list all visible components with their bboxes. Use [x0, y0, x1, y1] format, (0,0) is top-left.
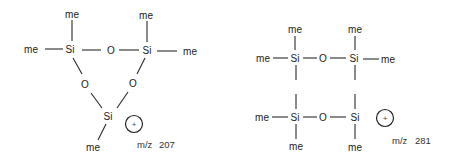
svg-text:+: + [383, 114, 388, 123]
atom-si: Si [291, 112, 300, 123]
atom-me: me [348, 142, 362, 153]
atom-me: me [139, 10, 153, 21]
svg-text:+: + [132, 120, 137, 129]
bond-o-left-si3 [91, 93, 102, 108]
atom-me: me [24, 44, 38, 55]
bond-si3-me-bottom [98, 124, 106, 140]
left-structure: me me Si O Si me me O O Si me + m/z 207 [24, 9, 197, 153]
siloxane-fragment-diagram: me me Si O Si me me O O Si me + m/z 207 [0, 0, 450, 159]
atom-si: Si [104, 111, 113, 122]
atom-me: me [348, 24, 362, 35]
right-structure: me me Si O Si me me me Si O Si me me + m… [255, 24, 431, 153]
atom-si: Si [350, 53, 359, 64]
atom-me: me [183, 46, 197, 57]
atom-si: Si [351, 112, 360, 123]
mz-label: m/z [392, 135, 408, 146]
atom-si: Si [66, 44, 75, 55]
atom-si: Si [143, 45, 152, 56]
mz-label: m/z [137, 139, 153, 150]
bond-si2-o-right [137, 58, 145, 74]
atom-me: me [289, 141, 303, 152]
atom-o: O [319, 53, 327, 64]
atom-me: me [288, 24, 302, 35]
atom-o: O [107, 45, 115, 56]
atom-o: O [81, 79, 89, 90]
bond-si1-o-left [73, 58, 82, 74]
atom-me: me [86, 142, 100, 153]
positive-charge-icon: + [377, 110, 394, 127]
atom-me: me [255, 112, 269, 123]
atom-o: O [319, 112, 327, 123]
bond-o-right-si3 [117, 92, 128, 108]
mz-value: 207 [159, 139, 175, 150]
atom-me: me [256, 53, 270, 64]
atom-me: me [381, 54, 395, 65]
atom-o: O [129, 78, 137, 89]
atom-si: Si [291, 53, 300, 64]
atom-me: me [65, 9, 79, 20]
mz-value: 281 [415, 135, 431, 146]
positive-charge-icon: + [126, 116, 143, 133]
